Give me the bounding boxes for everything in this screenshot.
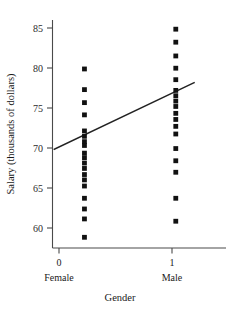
y-tick-label: 75 <box>33 103 43 114</box>
data-point <box>173 219 178 224</box>
data-point <box>173 132 178 137</box>
scatter-plot-figure: 85 80 75 70 65 60 0 1 Female Male Gender… <box>0 0 234 317</box>
data-point <box>82 217 87 222</box>
data-point <box>173 54 178 59</box>
x-category-label-male: Male <box>162 272 183 283</box>
bottom-caption <box>0 309 234 317</box>
data-point <box>82 207 87 212</box>
data-point <box>173 104 178 109</box>
data-point <box>82 151 87 156</box>
y-tick-label: 65 <box>33 183 43 194</box>
data-point <box>173 88 178 93</box>
y-tick-label: 60 <box>33 223 43 234</box>
data-point <box>82 196 87 201</box>
data-point <box>82 100 87 105</box>
data-point <box>82 155 87 160</box>
data-point <box>82 129 87 134</box>
data-point <box>82 178 87 183</box>
data-point <box>173 124 178 129</box>
data-point <box>173 170 178 175</box>
data-point <box>173 99 178 104</box>
data-point <box>82 184 87 189</box>
data-point <box>82 112 87 117</box>
x-tick-label: 0 <box>57 257 62 268</box>
data-point <box>82 143 87 148</box>
y-tick-label: 70 <box>33 143 43 154</box>
data-point <box>82 172 87 177</box>
data-point <box>82 166 87 171</box>
data-point <box>82 235 87 240</box>
data-point <box>173 77 178 82</box>
data-point <box>173 93 178 98</box>
x-axis-category-labels: Female Male <box>44 272 183 283</box>
y-tick-label: 85 <box>33 23 43 34</box>
data-point <box>82 134 87 139</box>
data-point <box>82 161 87 166</box>
data-point <box>173 111 178 116</box>
data-point <box>173 158 178 163</box>
data-point <box>173 40 178 45</box>
x-tick-label: 1 <box>170 257 175 268</box>
x-axis-ticks <box>59 248 172 254</box>
x-axis-title: Gender <box>105 292 136 303</box>
data-series-female <box>82 67 87 240</box>
y-axis-title: Salary (thousands of dollars) <box>5 73 17 195</box>
data-point <box>173 196 178 201</box>
y-tick-label: 80 <box>33 63 43 74</box>
data-point <box>173 27 178 32</box>
data-point <box>82 87 87 92</box>
data-series-male <box>173 27 178 224</box>
data-point <box>173 117 178 122</box>
y-axis-tick-labels: 85 80 75 70 65 60 <box>33 23 43 234</box>
x-axis-tick-labels: 0 1 <box>57 257 175 268</box>
regression-fit-line <box>54 83 194 150</box>
chart-canvas: 85 80 75 70 65 60 0 1 Female Male Gender… <box>0 0 234 317</box>
y-axis-ticks <box>47 28 53 228</box>
data-point <box>82 67 87 72</box>
data-point <box>173 66 178 71</box>
data-point <box>173 146 178 151</box>
x-category-label-female: Female <box>44 272 74 283</box>
